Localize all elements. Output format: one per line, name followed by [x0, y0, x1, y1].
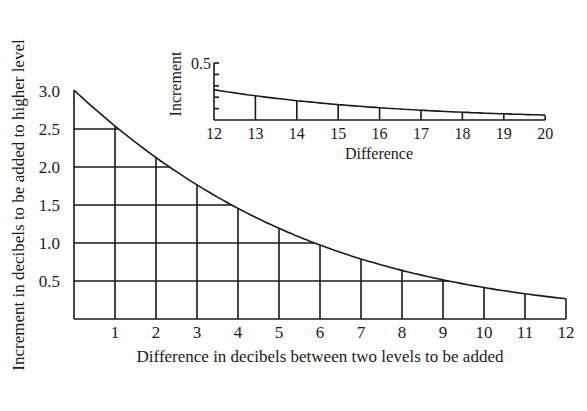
inset-x-tick-label: 19 — [496, 125, 512, 142]
main-y-tick-label: 3.0 — [39, 82, 60, 101]
main-y-tick-label: 1.5 — [39, 196, 60, 215]
main-x-tick-label: 12 — [558, 323, 575, 342]
inset-y-axis-label: Increment — [167, 51, 184, 116]
main-x-tick-label: 1 — [111, 323, 120, 342]
decibel-addition-chart: 1234567891011120.51.01.52.02.53.0 121314… — [0, 0, 587, 411]
main-y-tick-label: 2.0 — [39, 158, 60, 177]
inset-x-tick-label: 17 — [413, 125, 429, 142]
main-x-tick-label: 3 — [193, 323, 202, 342]
inset-x-tick-label: 15 — [330, 125, 346, 142]
main-y-tick-label: 0.5 — [39, 272, 60, 291]
inset-plot: 1213141516171819200.5 — [191, 55, 553, 142]
main-x-tick-label: 2 — [152, 323, 161, 342]
main-x-tick-label: 11 — [517, 323, 533, 342]
main-x-tick-label: 6 — [316, 323, 325, 342]
main-x-tick-label: 10 — [476, 323, 493, 342]
main-x-tick-label: 5 — [275, 323, 284, 342]
inset-x-axis-label: Difference — [345, 145, 413, 162]
main-x-tick-label: 9 — [439, 323, 448, 342]
inset-x-tick-label: 12 — [206, 125, 222, 142]
inset-x-tick-label: 13 — [247, 125, 263, 142]
main-x-tick-label: 8 — [398, 323, 407, 342]
inset-x-tick-label: 16 — [372, 125, 388, 142]
main-plot: 1234567891011120.51.01.52.02.53.0 — [39, 82, 575, 342]
main-x-tick-label: 7 — [357, 323, 366, 342]
main-x-tick-label: 4 — [234, 323, 243, 342]
main-x-axis-label: Difference in decibels between two level… — [137, 347, 504, 366]
inset-x-tick-label: 20 — [537, 125, 553, 142]
main-y-tick-label: 2.5 — [39, 120, 60, 139]
main-y-tick-label: 1.0 — [39, 234, 60, 253]
inset-y-tick-label: 0.5 — [191, 55, 211, 72]
inset-x-tick-label: 14 — [289, 125, 305, 142]
main-y-axis-label: Increment in decibels to be added to hig… — [9, 39, 28, 371]
inset-x-tick-label: 18 — [454, 125, 470, 142]
